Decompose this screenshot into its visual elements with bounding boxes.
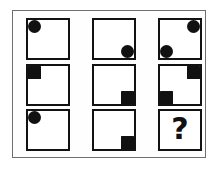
matrix-puzzle-root: ? xyxy=(0,0,217,169)
circle-shape-top-right xyxy=(187,20,200,33)
square-shape-bottom-left xyxy=(160,91,173,104)
matrix-cell-r2c3[interactable] xyxy=(158,64,202,106)
square-shape-bottom-right xyxy=(121,91,134,104)
square-shape-top-left xyxy=(28,66,41,79)
matrix-cell-r3c1[interactable] xyxy=(26,109,70,151)
square-shape-bottom-right xyxy=(121,136,134,149)
matrix-cell-r3c3-answer[interactable]: ? xyxy=(158,109,202,151)
matrix-cell-r1c2[interactable] xyxy=(92,18,136,60)
question-mark-label: ? xyxy=(160,111,200,149)
circle-shape-top-left xyxy=(28,20,41,33)
circle-shape-top-left xyxy=(28,111,41,124)
matrix-cell-r2c1[interactable] xyxy=(26,64,70,106)
circle-shape-bottom-right xyxy=(121,45,134,58)
square-shape-top-right xyxy=(187,66,200,79)
matrix-cell-r3c2[interactable] xyxy=(92,109,136,151)
matrix-cell-r1c3[interactable] xyxy=(158,18,202,60)
matrix-cell-r1c1[interactable] xyxy=(26,18,70,60)
matrix-grid: ? xyxy=(26,18,194,151)
circle-shape-bottom-left xyxy=(160,45,173,58)
matrix-cell-r2c2[interactable] xyxy=(92,64,136,106)
